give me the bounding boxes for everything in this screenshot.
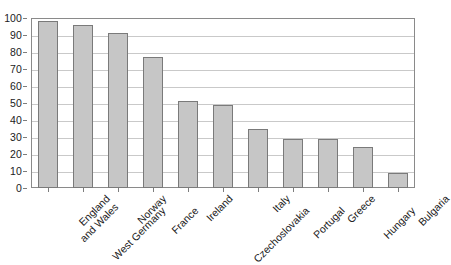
x-axis-category-label: Italy bbox=[271, 193, 293, 215]
bar bbox=[143, 57, 163, 188]
bar bbox=[108, 33, 128, 188]
y-tick-mark bbox=[23, 52, 27, 53]
y-tick-mark bbox=[23, 154, 27, 155]
y-tick-label: 60 bbox=[10, 80, 22, 92]
x-axis-category-label-line: Hungary bbox=[381, 205, 417, 241]
x-axis-category-label: Hungary bbox=[381, 205, 417, 241]
x-axis-category-label: Greece bbox=[345, 193, 377, 225]
y-tick-label: 20 bbox=[10, 148, 22, 160]
bar bbox=[178, 101, 198, 188]
y-tick-mark bbox=[23, 103, 27, 104]
bar bbox=[353, 147, 373, 188]
x-axis-category-label-line: Portugal bbox=[311, 205, 347, 241]
y-tick-label: 50 bbox=[10, 97, 22, 109]
x-axis-category-label-line: France bbox=[170, 205, 201, 236]
y-tick-mark bbox=[23, 18, 27, 19]
bar bbox=[318, 139, 338, 188]
bar bbox=[283, 139, 303, 188]
y-tick-mark bbox=[23, 69, 27, 70]
x-axis-category-label: Czechoslovakia bbox=[252, 205, 312, 265]
x-axis-category-label-line: Greece bbox=[345, 193, 377, 225]
x-axis-category-label-line: Italy bbox=[271, 193, 293, 215]
x-axis-category-label: Ireland bbox=[204, 193, 235, 224]
y-tick-mark bbox=[23, 171, 27, 172]
x-axis-category-label: France bbox=[170, 205, 201, 236]
x-axis-category-label: Bulgaria bbox=[416, 193, 451, 228]
bar bbox=[38, 21, 58, 188]
x-axis-category-label: Portugal bbox=[311, 205, 347, 241]
y-tick-mark bbox=[23, 35, 27, 36]
y-tick-label: 90 bbox=[10, 29, 22, 41]
y-tick-label: 70 bbox=[10, 63, 22, 75]
bar bbox=[388, 173, 408, 188]
x-axis-labels: Englandand WalesWest GermanyNorwayFrance… bbox=[0, 188, 436, 265]
y-tick-mark bbox=[23, 86, 27, 87]
x-axis-category-label-line: Bulgaria bbox=[416, 193, 451, 228]
y-axis: 1009080706050403020100 bbox=[0, 18, 27, 188]
y-tick-label: 30 bbox=[10, 131, 22, 143]
y-tick-label: 10 bbox=[10, 165, 22, 177]
y-tick-mark bbox=[23, 120, 27, 121]
y-tick-label: 80 bbox=[10, 46, 22, 58]
bar bbox=[213, 105, 233, 188]
y-tick-mark bbox=[23, 137, 27, 138]
y-tick-label: 40 bbox=[10, 114, 22, 126]
x-axis-category-label-line: Czechoslovakia bbox=[252, 205, 312, 265]
x-axis-category-label-line: Ireland bbox=[204, 193, 235, 224]
bar bbox=[248, 129, 268, 189]
bar bbox=[73, 25, 93, 188]
y-tick-label: 100 bbox=[4, 12, 22, 24]
x-axis-category-label: Englandand Wales bbox=[70, 193, 121, 244]
bars-group bbox=[31, 18, 415, 188]
